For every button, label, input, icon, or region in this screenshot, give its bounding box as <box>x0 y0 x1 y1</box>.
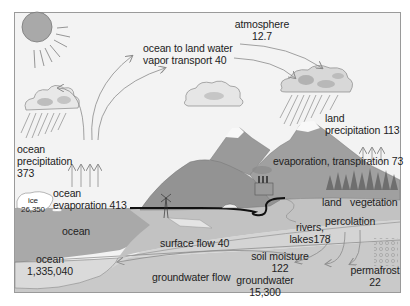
permafrost-label: permafrost 22 <box>345 264 405 288</box>
ocean-surface-label: ocean <box>62 225 90 237</box>
permafrost-icon <box>374 238 398 266</box>
ocean-precipitation-label: ocean precipitation 373 <box>17 143 72 179</box>
rivers-lakes-label: rivers, lakes178 <box>285 221 335 245</box>
soil-moisture-label: soil moisture 122 <box>245 250 315 274</box>
surface-flow-label: surface flow 40 <box>160 237 229 249</box>
ocean-to-land-label: ocean to land water vapor transport 40 <box>143 42 233 66</box>
ocean-store-label: ocean 1,335,040 <box>20 253 80 277</box>
ocean-evaporation-label: ocean evaporation 413 <box>53 187 127 211</box>
evapotranspiration-label: evaporation, transpiration 73 <box>273 155 403 167</box>
land-label: land <box>322 196 341 208</box>
groundwater-label: groundwater 15,300 <box>230 274 300 298</box>
atmosphere-label: atmosphere 12.7 <box>222 18 302 42</box>
ice-label: ice 26,350 <box>17 196 49 214</box>
vegetation-label: vegetation <box>350 196 397 208</box>
land-precipitation-label: land precipitation 113 <box>325 112 400 136</box>
groundwater-flow-label: groundwater flow <box>152 271 230 283</box>
